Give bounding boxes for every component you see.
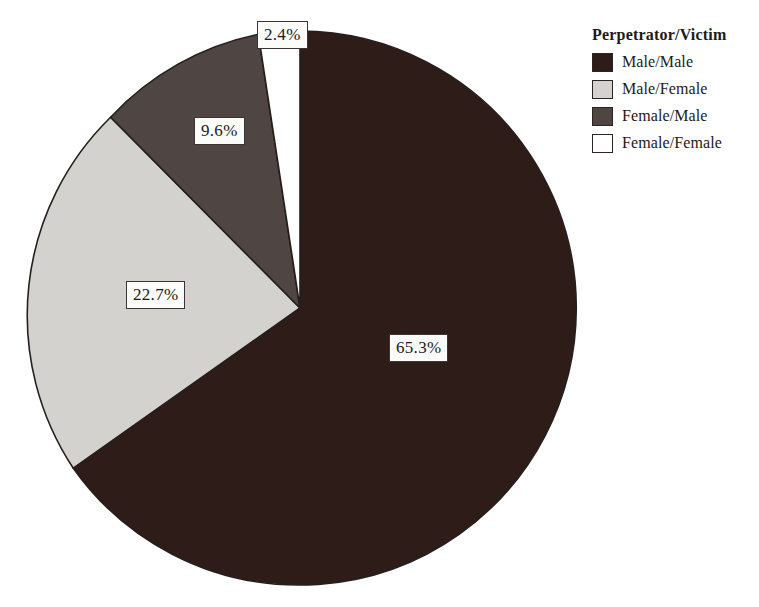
- legend-label-female-female: Female/Female: [622, 134, 722, 152]
- pie-chart-area: 65.3% 22.7% 9.6% 2.4%: [0, 0, 600, 607]
- legend-item-male-female: Male/Female: [592, 78, 759, 100]
- pie-label-male-male: 65.3%: [389, 334, 448, 362]
- legend-title: Perpetrator/Victim: [592, 26, 759, 44]
- pie-chart-svg: [0, 0, 600, 607]
- legend-swatch-female-female: [592, 134, 613, 153]
- pie-label-male-female: 22.7%: [126, 281, 185, 309]
- legend-item-female-female: Female/Female: [592, 132, 759, 154]
- legend-swatch-male-male: [592, 53, 613, 72]
- legend-item-female-male: Female/Male: [592, 105, 759, 127]
- legend-swatch-male-female: [592, 80, 613, 99]
- legend-label-male-female: Male/Female: [622, 80, 708, 98]
- legend-label-female-male: Female/Male: [622, 107, 708, 125]
- legend: Perpetrator/Victim Male/Male Male/Female…: [592, 26, 759, 159]
- pie-label-female-male: 9.6%: [194, 117, 245, 145]
- legend-swatch-female-male: [592, 107, 613, 126]
- legend-label-male-male: Male/Male: [622, 53, 693, 71]
- legend-item-male-male: Male/Male: [592, 51, 759, 73]
- pie-chart-figure: 65.3% 22.7% 9.6% 2.4% Perpetrator/Victim…: [0, 0, 759, 607]
- pie-label-female-female: 2.4%: [257, 21, 308, 49]
